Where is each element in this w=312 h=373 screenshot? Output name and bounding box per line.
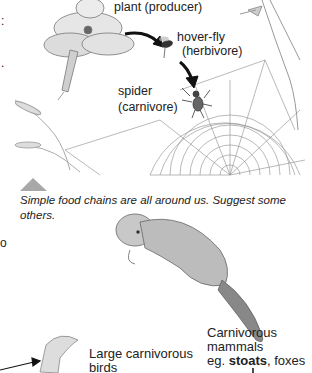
birds-label-line2: birds	[89, 361, 193, 373]
mammals-prefix: eg.	[207, 353, 229, 368]
birds-label-line1: Large carnivorous	[89, 347, 193, 361]
food-chain-illustration	[0, 0, 312, 373]
arrow-icon	[0, 358, 40, 370]
caption-line1: Simple food chains are all around us. Su…	[20, 193, 286, 208]
triangle-marker-icon	[20, 178, 47, 191]
hoverfly-label: hover-fly (herbivore)	[177, 30, 242, 58]
grass-icon	[240, 0, 300, 130]
bird-icon	[40, 336, 78, 373]
hoverfly-icon	[159, 37, 174, 59]
stoat-icon	[116, 214, 263, 342]
spider-label-line2: (carnivore)	[118, 99, 178, 115]
spider-label: spider (carnivore)	[118, 83, 178, 115]
spider-web-icon	[65, 60, 305, 175]
figure-caption: Simple food chains are all around us. Su…	[20, 193, 286, 223]
hoverfly-label-line1: hover-fly	[177, 30, 242, 44]
mammals-label: Carnivorous mammals eg. stoats, foxes	[207, 326, 305, 368]
mammals-example-bold: stoats	[229, 353, 267, 368]
spider-icon	[182, 88, 212, 118]
mammals-suffix: , foxes	[267, 353, 305, 368]
mammals-label-line3: eg. stoats, foxes	[207, 354, 305, 368]
birds-label: Large carnivorous birds	[89, 347, 193, 373]
mammals-label-line2: mammals	[207, 340, 305, 354]
hoverfly-label-line2: (herbivore)	[182, 44, 242, 58]
caption-line2: others.	[20, 208, 286, 223]
wheat-icon	[14, 99, 80, 172]
spider-label-line1: spider	[118, 83, 178, 99]
mammals-label-line1: Carnivorous	[207, 326, 305, 340]
plant-label: plant (producer)	[114, 0, 202, 14]
